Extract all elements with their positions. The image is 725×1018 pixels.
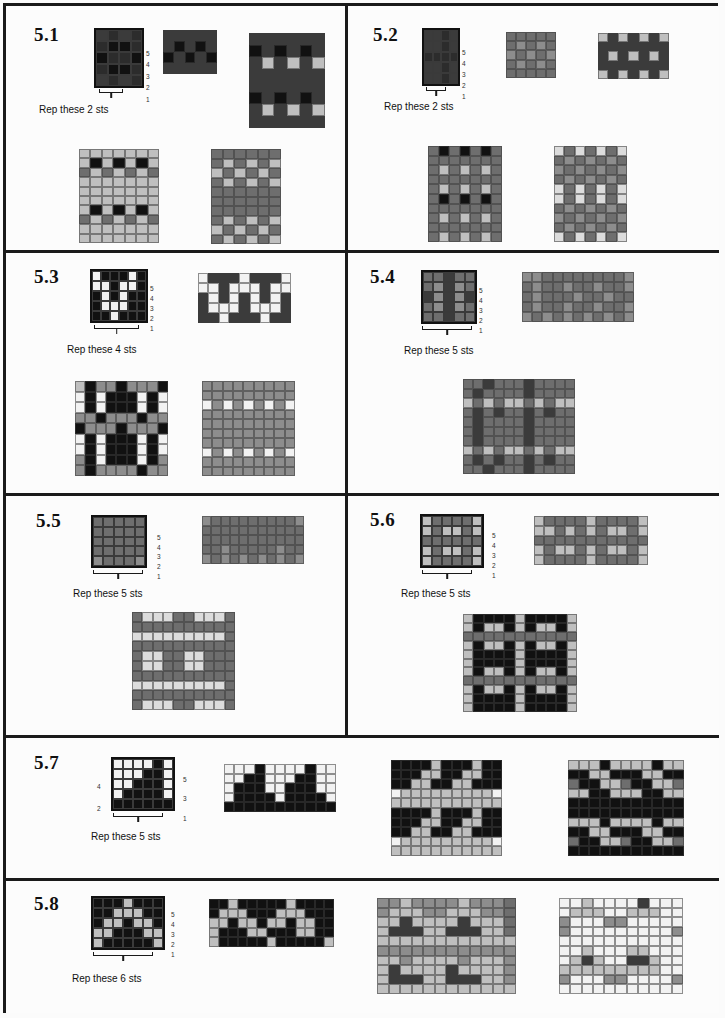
swatch-cell	[482, 846, 492, 856]
swatch-cell	[269, 197, 281, 207]
chart-cell	[123, 799, 133, 809]
swatch-cell	[209, 918, 219, 928]
swatch-cell	[234, 235, 246, 245]
swatch-cell	[287, 69, 300, 81]
swatch-cell	[212, 438, 222, 448]
chart-cell	[123, 918, 133, 928]
swatch-cell	[663, 827, 674, 837]
chart-cell	[423, 312, 433, 322]
swatch-cell	[593, 946, 604, 956]
swatch-cell	[153, 632, 163, 642]
swatch-cell	[563, 272, 573, 282]
swatch-cell	[575, 165, 585, 175]
swatch-cell	[411, 846, 421, 856]
swatch-cell	[564, 156, 574, 166]
swatch-cell	[470, 936, 482, 946]
swatch-cell	[428, 232, 439, 242]
swatch-cell	[391, 837, 401, 847]
swatch-cell	[559, 898, 570, 908]
row-labels-5-4: 54321	[479, 288, 483, 334]
swatch-cell	[555, 516, 565, 526]
swatch-cell	[559, 927, 570, 937]
swatch-cell	[270, 283, 280, 293]
swatch-cell	[515, 632, 525, 641]
swatch-cell	[604, 984, 615, 994]
swatch-cell	[233, 438, 243, 448]
swatch-cell	[483, 417, 493, 427]
swatch-cell	[254, 457, 264, 467]
swatch-cell	[315, 928, 325, 938]
swatch-cell	[142, 700, 152, 710]
swatch-cell	[305, 793, 315, 803]
swatch-cell	[202, 554, 211, 564]
swatch-cell	[428, 194, 439, 204]
chart-cell	[432, 546, 442, 556]
swatch-cell	[494, 389, 504, 399]
swatch-cell	[267, 545, 276, 555]
swatch-cell	[473, 398, 483, 408]
swatch-cell	[470, 984, 482, 994]
swatch-cell	[163, 632, 173, 642]
chart-cell	[133, 928, 143, 938]
swatch-cell	[296, 909, 306, 919]
swatch-cell	[555, 465, 565, 475]
swatch-cell	[600, 770, 611, 780]
swatch-cell	[570, 927, 581, 937]
swatch-cell	[254, 419, 264, 429]
swatch-cell	[264, 381, 274, 391]
chart-cell	[119, 311, 128, 321]
swatch-cell	[525, 632, 535, 641]
swatch-cell	[492, 760, 502, 770]
chart-cell	[465, 302, 475, 312]
swatch-cell	[608, 33, 618, 42]
swatch-cell	[211, 159, 223, 169]
swatch-cell	[324, 909, 334, 919]
swatch-cell	[142, 671, 152, 681]
swatch-cell	[285, 554, 294, 564]
swatch-cell	[412, 946, 424, 956]
swatch-cell	[295, 793, 305, 803]
chart-cell	[462, 526, 472, 536]
panel-5-7: 5.7 42 531 Rep these 5 sts	[6, 738, 719, 881]
swatch-cell	[492, 846, 502, 856]
swatch-cell	[515, 641, 525, 650]
swatch-cell	[483, 465, 493, 475]
swatch-cell	[568, 808, 579, 818]
swatch-cell	[458, 984, 470, 994]
swatch-cell	[673, 837, 684, 847]
swatch-cell	[142, 632, 152, 642]
swatch-cell	[275, 793, 285, 803]
swatch-cell	[582, 908, 593, 918]
chart-cell	[433, 272, 443, 282]
swatch-cell	[158, 413, 168, 424]
swatch-cell	[244, 793, 254, 803]
swatch-cell	[610, 760, 621, 770]
swatch-cell	[624, 272, 634, 282]
swatch-cell	[463, 389, 473, 399]
swatch-cell	[202, 467, 212, 477]
swatch-cell	[544, 516, 554, 526]
swatch-cell	[565, 555, 575, 565]
swatch-cell	[534, 465, 544, 475]
swatch-cell	[127, 465, 137, 476]
swatch-cell	[142, 681, 152, 691]
swatch-cell	[142, 622, 152, 632]
swatch-cell	[249, 81, 262, 93]
swatch-cell	[504, 936, 516, 946]
swatch-cell	[274, 438, 284, 448]
swatch-cell	[483, 455, 493, 465]
swatch-cell	[463, 685, 473, 694]
swatch-cell	[391, 827, 401, 837]
chart-cell	[92, 281, 101, 291]
chart-cell	[137, 311, 146, 321]
swatch-cell	[579, 818, 590, 828]
swatch-cell	[287, 104, 300, 116]
swatch-cell	[583, 302, 593, 312]
row-label: 3	[171, 932, 175, 939]
swatch-cell	[116, 423, 126, 434]
swatch-cell	[672, 908, 683, 918]
swatch-cell	[615, 908, 626, 918]
chart-cell	[103, 556, 113, 566]
swatch-cell	[326, 802, 336, 812]
swatch-cell	[494, 408, 504, 418]
